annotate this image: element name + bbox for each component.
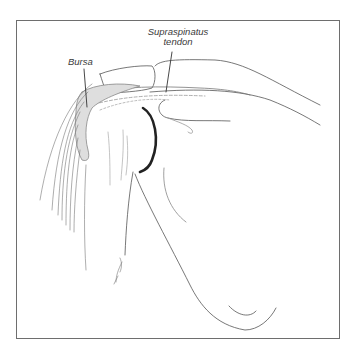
tuberosity-shading <box>108 130 128 185</box>
label-line-2: tendon <box>138 37 218 47</box>
glenoid-cartilage <box>140 108 156 172</box>
supraspinatus-leader <box>166 52 172 92</box>
coracoid-process <box>159 100 230 121</box>
supraspinatus-tendon-label: Supraspinatus tendon <box>138 27 218 47</box>
humerus-inner <box>164 168 186 222</box>
bursa-label: Bursa <box>68 57 98 67</box>
humerus-medial <box>135 174 276 330</box>
bursa-region <box>75 84 140 161</box>
humerus-lateral <box>125 172 133 255</box>
shoulder-skin-outline <box>155 60 320 105</box>
artist-signature <box>114 258 122 284</box>
shoulder-illustration <box>0 0 355 356</box>
